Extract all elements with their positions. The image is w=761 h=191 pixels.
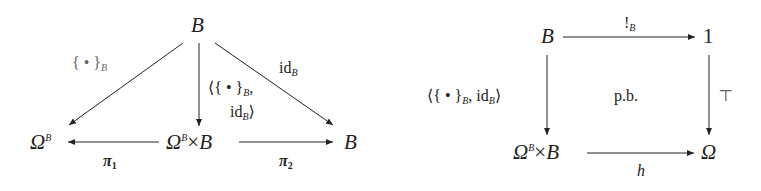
label-identity-map: idB [279, 60, 298, 78]
label-true-map: ⊤ [718, 88, 733, 104]
left-object-right-B: B [344, 132, 357, 153]
right-object-B: B [541, 26, 554, 47]
right-object-omega: Ω [701, 142, 716, 163]
label-pairing-map-right: ⟨{ • }B, idB⟩ [427, 88, 501, 106]
left-object-omega-B: ΩB [30, 132, 51, 153]
left-object-top-B: B [191, 15, 204, 36]
label-projection-1: π1 [103, 153, 117, 171]
label-projection-2: π2 [279, 153, 293, 171]
label-h-map: h [637, 163, 645, 179]
left-object-product: ΩB×B [166, 132, 212, 153]
label-singleton-map: { • }B [72, 55, 107, 73]
pullback-label: p.b. [614, 88, 638, 104]
label-pairing-map: ⟨{ • }B, idB⟩ [208, 80, 255, 122]
label-terminal-map: !B [624, 15, 635, 33]
right-object-terminal: 1 [703, 26, 714, 47]
right-object-product: ΩB×B [513, 142, 559, 163]
